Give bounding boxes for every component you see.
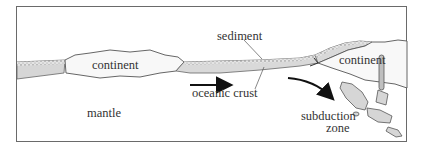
label-mantle: mantle [87,107,121,120]
label-oceanic-crust: oceanic crust [192,87,258,100]
label-sediment: sediment [217,30,262,43]
left-oceanic-crust [17,60,65,79]
middle-oceanic-crust [176,55,318,73]
label-continent-left: continent [92,59,139,72]
label-zone: zone [326,122,350,135]
label-continent-right: continent [339,54,386,67]
cross-section-illustration [0,0,425,149]
subduction-arrow [288,78,330,96]
